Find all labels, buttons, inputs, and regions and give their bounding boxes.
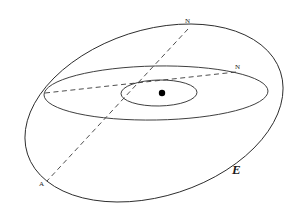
label-north-pole: N bbox=[185, 17, 190, 25]
figure-root: N N A E bbox=[0, 0, 298, 211]
label-node: N bbox=[235, 63, 240, 71]
label-apex: A bbox=[39, 180, 44, 188]
label-plane-e: E bbox=[232, 162, 241, 178]
center-point-marker bbox=[159, 90, 165, 96]
orbital-ellipse-diagram bbox=[0, 0, 298, 211]
